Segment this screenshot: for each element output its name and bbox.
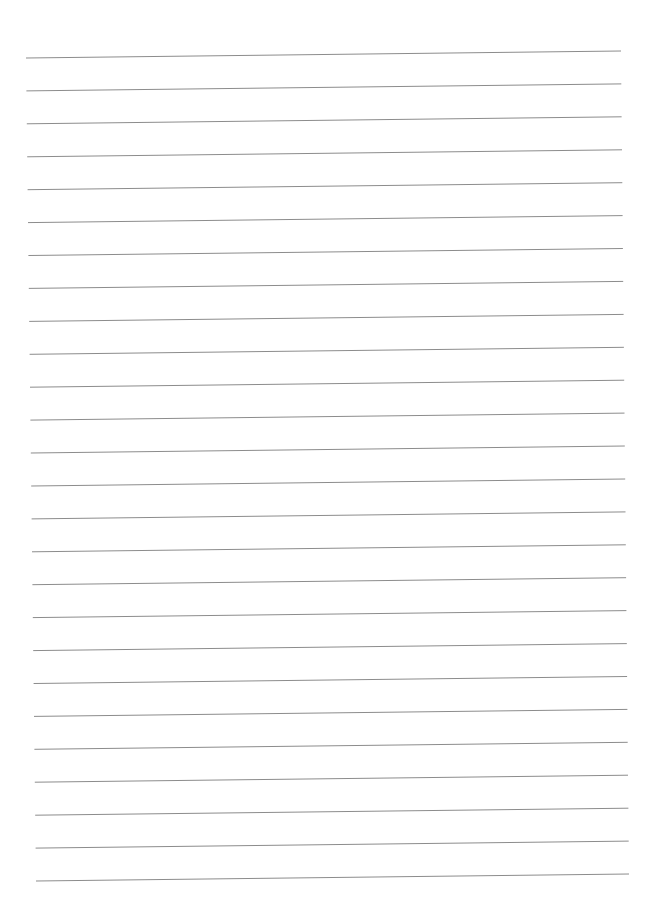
- ruled-line: [35, 775, 628, 782]
- ruled-line: [30, 413, 624, 420]
- ruled-line: [36, 841, 629, 848]
- ruled-line: [28, 183, 623, 190]
- ruled-lines: [0, 0, 650, 910]
- lined-paper-page: [0, 0, 650, 910]
- ruled-line: [27, 150, 622, 157]
- ruled-line: [29, 314, 623, 321]
- ruled-line: [34, 677, 628, 684]
- ruled-line: [34, 709, 627, 716]
- ruled-line: [35, 808, 628, 815]
- ruled-line: [28, 216, 623, 223]
- ruled-line: [27, 117, 622, 124]
- ruled-line: [29, 281, 623, 288]
- ruled-line: [31, 479, 625, 486]
- ruled-line: [32, 545, 626, 552]
- ruled-line: [36, 874, 629, 881]
- ruled-line: [26, 84, 621, 91]
- ruled-line: [30, 380, 624, 387]
- ruled-line: [33, 611, 627, 618]
- ruled-line: [33, 644, 627, 651]
- ruled-line: [32, 578, 626, 585]
- ruled-line: [31, 446, 625, 453]
- ruled-line: [34, 742, 627, 749]
- ruled-line: [26, 51, 621, 58]
- ruled-line: [30, 347, 624, 354]
- ruled-line: [32, 512, 626, 519]
- ruled-line: [28, 249, 623, 256]
